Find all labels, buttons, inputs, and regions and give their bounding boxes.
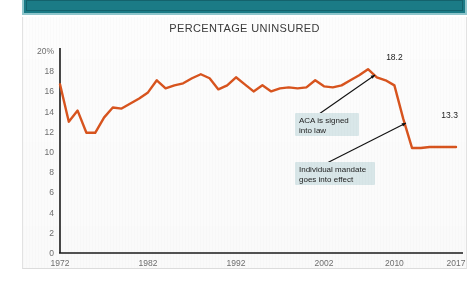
y-axis-tick-label: 12 <box>45 127 55 137</box>
x-axis-tick-label: 1982 <box>139 258 158 268</box>
data-series-line <box>60 69 456 148</box>
y-axis-tick-label: 18 <box>45 66 55 76</box>
data-point-label: 18.2 <box>386 52 403 62</box>
y-axis-tick-labels: 20%181614121086420 <box>37 46 54 258</box>
annotation-text-line-1: Individual mandate <box>299 165 367 174</box>
annotation-text-line-2: into law <box>299 126 326 135</box>
data-point-label: 13.3 <box>441 110 458 120</box>
y-axis-tick-label: 14 <box>45 107 55 117</box>
y-axis-tick-label: 6 <box>49 187 54 197</box>
y-axis-tick-label: 10 <box>45 147 55 157</box>
y-axis-tick-label: 0 <box>49 248 54 258</box>
y-axis-tick-label: 20% <box>37 46 54 56</box>
y-axis-tick-label: 8 <box>49 167 54 177</box>
y-axis-tick-label: 4 <box>49 208 54 218</box>
x-axis-tick-label: 2017 <box>447 258 466 268</box>
chart-card: PERCENTAGE UNINSURED 20%181614121086420 … <box>22 17 467 269</box>
uninsured-line-chart: 20%181614121086420 197219821992200220102… <box>23 17 468 269</box>
x-axis-tick-labels: 197219821992200220102017 <box>51 258 466 268</box>
y-axis-tick-label: 16 <box>45 86 55 96</box>
x-axis-tick-label: 2010 <box>385 258 404 268</box>
data-point-labels: 18.213.3 <box>386 52 458 119</box>
x-axis-tick-label: 1972 <box>51 258 70 268</box>
annotation-callouts: ACA is signedinto lawIndividual mandateg… <box>295 113 375 185</box>
x-axis-tick-label: 2002 <box>315 258 334 268</box>
y-axis-tick-label: 2 <box>49 228 54 238</box>
top-teal-bar <box>22 0 467 15</box>
annotation-text-line-2: goes into effect <box>299 175 354 184</box>
top-teal-bar-inner-border <box>26 0 463 11</box>
x-axis-tick-label: 1992 <box>227 258 246 268</box>
annotation-text-line-1: ACA is signed <box>299 116 349 125</box>
